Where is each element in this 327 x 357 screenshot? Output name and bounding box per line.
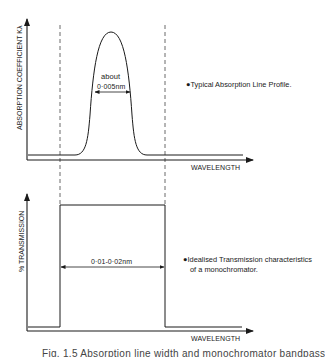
figure-caption: Fig. 1.5 Absorption line width and monoc… <box>42 348 325 357</box>
transmission-note-line1: ●Idealised Transmission characteristics <box>183 255 312 265</box>
transmission-note-line2: of a monochromator. <box>190 265 258 275</box>
about-label: about <box>101 72 120 81</box>
top-y-axis-label: ABSORPTION COEFFICIENT Kλ <box>16 26 23 131</box>
bandpass-width-label: 0·01-0·02nm <box>91 258 132 265</box>
dashed-guide-lines <box>60 25 165 205</box>
diagram-canvas <box>0 0 327 357</box>
bottom-y-axis-label: % TRANSMISSION <box>18 211 25 272</box>
absorption-line-profile-curve <box>28 32 243 155</box>
top-x-axis-label: WAVELENGTH <box>191 164 240 171</box>
line-width-label: 0·005nm <box>97 83 125 90</box>
absorption-profile-note: ●Typical Absorption Line Profile. <box>186 80 292 90</box>
bottom-x-axis-label: WAVELENGTH <box>191 335 240 342</box>
